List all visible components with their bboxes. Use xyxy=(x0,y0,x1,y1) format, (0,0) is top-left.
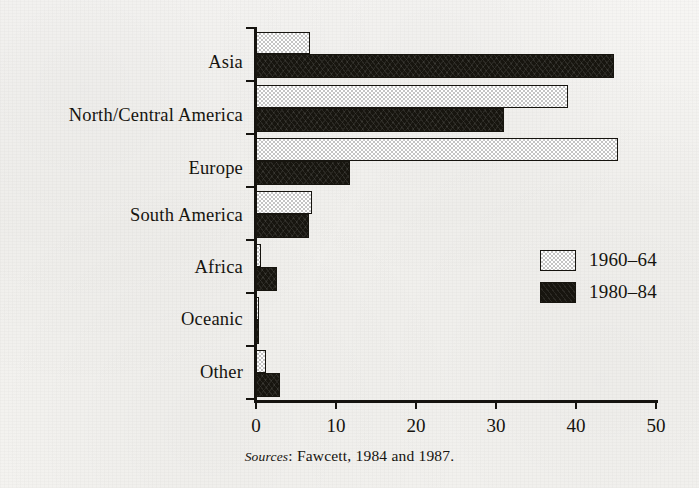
category-label-europe: Europe xyxy=(0,158,243,179)
legend-swatch-dark-solid-icon xyxy=(540,282,576,303)
category-label-south-america: South America xyxy=(0,205,243,226)
plot-area: 0 10 20 30 40 50 xyxy=(256,27,656,402)
y-axis-tick xyxy=(246,398,255,400)
x-axis-tick-label-30: 30 xyxy=(474,415,518,437)
x-axis-tick xyxy=(495,400,497,409)
x-axis-tick xyxy=(335,400,337,409)
source-note-body: : Fawcett, 1984 and 1987. xyxy=(288,447,454,464)
x-axis-tick xyxy=(415,400,417,409)
legend-item-1980-84: 1980–84 xyxy=(540,278,657,306)
bar-africa-1980-84 xyxy=(256,267,277,291)
x-axis-tick-label-10: 10 xyxy=(314,415,358,437)
bar-south-america-1980-84 xyxy=(256,214,309,238)
y-axis-tick xyxy=(246,292,255,294)
category-label-asia: Asia xyxy=(0,52,243,73)
x-axis-tick xyxy=(255,400,257,409)
x-axis-line xyxy=(254,400,658,403)
bar-africa-1960-64 xyxy=(256,244,261,267)
x-axis-tick-label-50: 50 xyxy=(634,415,678,437)
bar-north-central-america-1980-84 xyxy=(256,108,504,132)
bar-other-1960-64 xyxy=(256,350,266,373)
x-axis-tick-label-40: 40 xyxy=(554,415,598,437)
horizontal-bar-chart-figure: Asia North/Central America Europe South … xyxy=(0,0,699,488)
x-axis-tick xyxy=(575,400,577,409)
bar-asia-1980-84 xyxy=(256,54,614,78)
x-axis-tick xyxy=(655,400,657,409)
bar-north-central-america-1960-64 xyxy=(256,85,568,108)
legend-label-1980-84: 1980–84 xyxy=(589,281,657,303)
chart-legend: 1960–64 1980–84 xyxy=(540,246,657,310)
category-label-other: Other xyxy=(0,362,243,383)
bar-asia-1960-64 xyxy=(256,32,310,54)
y-axis-tick xyxy=(246,186,255,188)
source-note-prefix: Sources xyxy=(245,449,289,464)
bar-oceanic-1980-84 xyxy=(256,320,259,344)
x-axis-tick-label-20: 20 xyxy=(394,415,438,437)
y-axis-tick xyxy=(246,133,255,135)
bar-other-1980-84 xyxy=(256,373,280,397)
legend-item-1960-64: 1960–64 xyxy=(540,246,657,274)
bar-south-america-1960-64 xyxy=(256,191,312,214)
category-label-north-central-america: North/Central America xyxy=(0,105,243,126)
y-axis-tick xyxy=(246,80,255,82)
bar-europe-1960-64 xyxy=(256,138,618,161)
legend-label-1960-64: 1960–64 xyxy=(589,249,657,271)
bar-europe-1980-84 xyxy=(256,161,350,185)
legend-swatch-light-stipple-icon xyxy=(540,250,576,271)
y-axis-tick xyxy=(246,345,255,347)
category-label-africa: Africa xyxy=(0,257,243,278)
source-note: Sources: Fawcett, 1984 and 1987. xyxy=(0,447,699,465)
category-label-oceanic: Oceanic xyxy=(0,309,243,330)
bar-oceanic-1960-64 xyxy=(256,297,259,320)
x-axis-tick-label-0: 0 xyxy=(234,415,278,437)
y-axis-tick xyxy=(246,239,255,241)
category-axis-labels: Asia North/Central America Europe South … xyxy=(0,0,243,488)
y-axis-tick xyxy=(246,27,255,29)
